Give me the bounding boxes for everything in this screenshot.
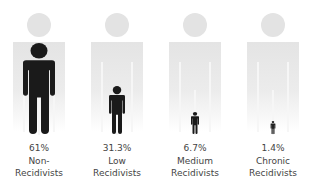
label-line-2: Recidivists: [156, 167, 234, 180]
ghost-person-icon: [234, 0, 312, 140]
group-label: 61% Non- Recidivists: [0, 142, 78, 180]
percent-value: 1.4%: [234, 142, 312, 155]
label-line-1: Chronic: [234, 155, 312, 168]
percent-value: 61%: [0, 142, 78, 155]
label-line-2: Recidivists: [234, 167, 312, 180]
person-icon: [270, 121, 276, 134]
group-non-recidivists: 61% Non- Recidivists: [0, 0, 78, 192]
person-icon: [190, 112, 200, 134]
percent-value: 31.3%: [78, 142, 156, 155]
label-line-2: Recidivists: [78, 167, 156, 180]
person-icon: [19, 43, 59, 134]
group-medium-recidivists: 6.7% Medium Recidivists: [156, 0, 234, 192]
group-label: 6.7% Medium Recidivists: [156, 142, 234, 180]
label-line-1: Non-: [0, 155, 78, 168]
person-icon: [107, 86, 127, 134]
group-label: 1.4% Chronic Recidivists: [234, 142, 312, 180]
group-chronic-recidivists: 1.4% Chronic Recidivists: [234, 0, 312, 192]
percent-value: 6.7%: [156, 142, 234, 155]
label-line-1: Medium: [156, 155, 234, 168]
label-line-1: Low: [78, 155, 156, 168]
group-low-recidivists: 31.3% Low Recidivists: [78, 0, 156, 192]
label-line-2: Recidivists: [0, 167, 78, 180]
group-label: 31.3% Low Recidivists: [78, 142, 156, 180]
